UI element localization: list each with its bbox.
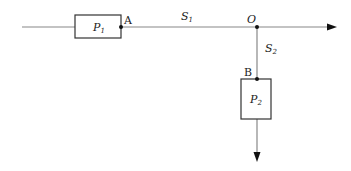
segment-s1-label: S1	[181, 10, 193, 24]
point-b-label: B	[244, 66, 252, 79]
segment-s2-label: S2	[265, 42, 278, 56]
point-b-dot	[255, 77, 259, 81]
point-a-label: A	[123, 14, 133, 27]
arrow-right-icon	[327, 24, 337, 31]
diagram-canvas: P1 A S1 O S2 P2 B	[0, 0, 351, 171]
point-o-label: O	[247, 13, 256, 26]
point-a-dot	[119, 25, 123, 29]
arrow-down-icon	[254, 152, 261, 162]
